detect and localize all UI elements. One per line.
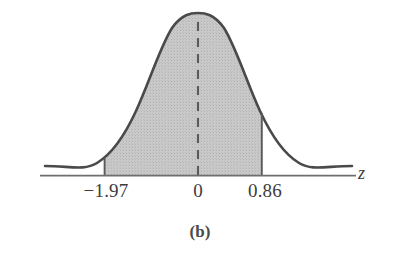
tick-label-mean: 0: [182, 180, 214, 202]
figure-caption: (b): [0, 222, 400, 242]
normal-distribution-figure: −1.97 0 0.86 z (b): [0, 0, 400, 263]
tick-label-upper-bound: 0.86: [232, 180, 298, 202]
z-axis-label: z: [358, 163, 365, 184]
tick-label-lower-bound: −1.97: [60, 180, 152, 202]
